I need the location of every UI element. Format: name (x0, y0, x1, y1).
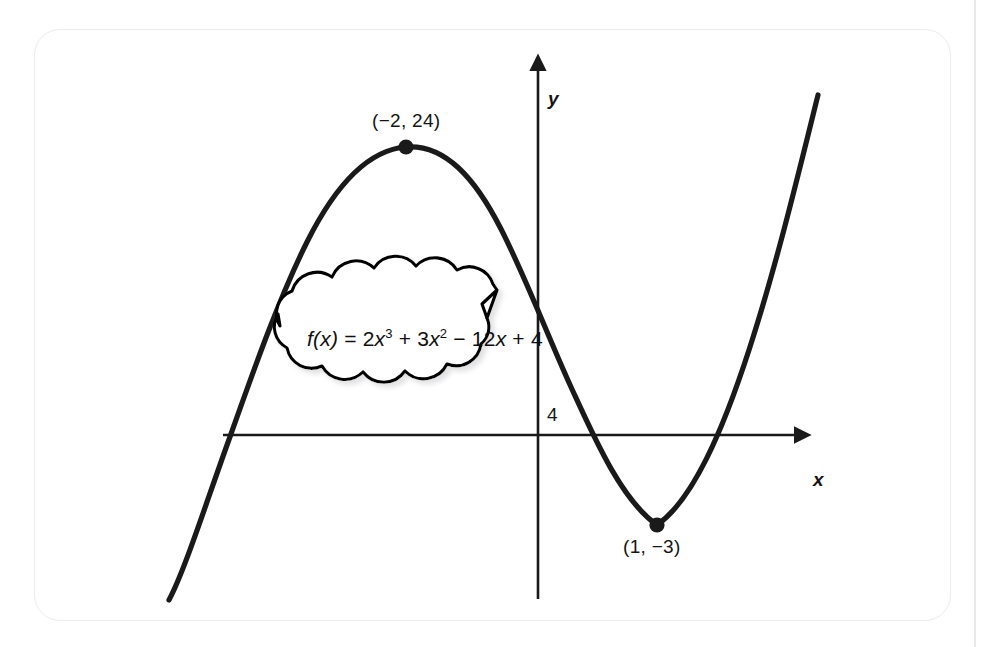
graph-canvas (35, 30, 950, 620)
equation-term3-coefficient: 12 (472, 327, 496, 350)
equation-term1-exponent: 3 (385, 326, 392, 341)
x-axis-label: x (813, 469, 824, 491)
local-maximum-point (398, 139, 413, 154)
equation-term1-variable: x (375, 327, 386, 350)
y-axis-label: y (548, 88, 559, 110)
equation-term1-coefficient: 2 (363, 327, 375, 350)
local-maximum-label: (−2, 24) (372, 110, 440, 132)
equation-term4-constant: 4 (531, 327, 543, 350)
equation-callout (274, 256, 497, 382)
local-minimum-label: (1, −3) (623, 536, 681, 558)
equation-term2-variable: x (429, 327, 440, 350)
equation-term2-operator: + (393, 327, 418, 350)
figure-card: (−2, 24) (1, −3) 4 y x f(x) = 2x3 + 3x2 … (34, 29, 951, 621)
equation-lhs: f(x) (307, 327, 338, 350)
equation-term3-operator: − (447, 327, 472, 350)
equation-equals: = (338, 327, 363, 350)
callout-cloud-shape (274, 256, 497, 382)
function-equation: f(x) = 2x3 + 3x2 − 12x + 4 (307, 327, 543, 351)
equation-term2-coefficient: 3 (417, 327, 429, 350)
page-edge-rule (974, 0, 976, 647)
equation-term4-operator: + (506, 327, 531, 350)
local-minimum-point (649, 517, 664, 532)
y-intercept-label: 4 (547, 404, 558, 426)
figure-page: (−2, 24) (1, −3) 4 y x f(x) = 2x3 + 3x2 … (0, 0, 989, 647)
equation-term3-variable: x (496, 327, 507, 350)
